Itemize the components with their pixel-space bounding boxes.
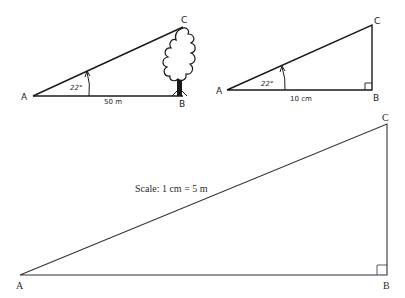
real-vertex-b-label: B <box>179 99 185 109</box>
real-angle-label: 22° <box>70 84 82 92</box>
sketch-vertex-a-label: A <box>216 86 223 96</box>
real-triangle: A B C 22° 50 m <box>21 15 195 109</box>
scale-vertex-a-label: A <box>16 280 24 291</box>
sketch-vertex-b-label: B <box>373 93 379 103</box>
real-hypotenuse-line <box>33 27 183 96</box>
real-vertex-a-label: A <box>21 92 28 102</box>
diagram-canvas: A B C 22° 50 m A B C 22° 10 cm A B C Sca… <box>0 0 405 298</box>
sketch-angle-label: 22° <box>261 80 273 88</box>
tree-icon <box>163 28 195 96</box>
scale-triangle-outline <box>20 124 387 275</box>
sketch-right-angle-icon <box>365 83 372 90</box>
sketch-triangle: A B C 22° 10 cm <box>216 16 380 103</box>
real-base-label: 50 m <box>104 98 122 106</box>
scale-right-angle-icon <box>377 265 387 275</box>
scale-vertex-b-label: B <box>383 280 390 291</box>
sketch-base-label: 10 cm <box>290 95 312 103</box>
sketch-triangle-outline <box>227 25 372 90</box>
scale-drawing-triangle: A B C Scale: 1 cm = 5 m <box>16 112 390 291</box>
scale-vertex-c-label: C <box>382 112 389 123</box>
scale-label: Scale: 1 cm = 5 m <box>135 183 208 194</box>
real-vertex-c-label: C <box>181 15 187 25</box>
real-angle-arc <box>87 72 89 96</box>
sketch-vertex-c-label: C <box>374 16 380 26</box>
